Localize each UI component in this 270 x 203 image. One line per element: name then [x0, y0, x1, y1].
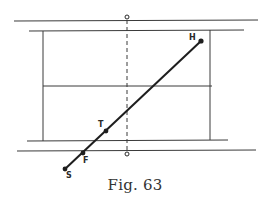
label-t: T: [98, 120, 104, 129]
figure-63: H T F S Fig. 63: [0, 0, 270, 203]
point-t-icon: [104, 129, 109, 134]
box-top-line: [29, 30, 244, 31]
label-f: F: [83, 156, 88, 165]
outer-top-line: [14, 20, 258, 21]
figure-caption: Fig. 63: [0, 176, 270, 194]
point-h-icon: [198, 38, 203, 43]
diagonal-line-s-h: [65, 41, 201, 169]
point-f-icon: [81, 151, 86, 156]
top-axis-marker-icon: [125, 15, 129, 19]
bottom-axis-marker-icon: [125, 152, 129, 156]
outer-bottom-line: [17, 150, 256, 151]
label-h: H: [189, 33, 196, 42]
diagram-canvas: H T F S: [0, 0, 270, 203]
